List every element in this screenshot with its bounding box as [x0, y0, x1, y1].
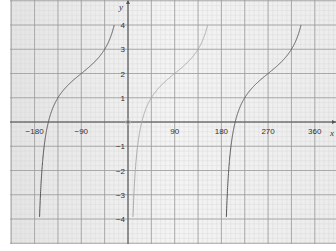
x-tick-label: 270 — [261, 127, 275, 136]
y-tick-label: 3 — [121, 45, 126, 54]
x-tick-label: 180 — [215, 127, 229, 136]
x-tick-label: 360 — [308, 127, 322, 136]
x-tick-label: −90 — [75, 127, 89, 136]
y-tick-label: −1 — [116, 142, 126, 151]
y-axis-label: y — [118, 2, 123, 12]
x-tick-label: 90 — [170, 127, 179, 136]
y-tick-label: −2 — [116, 167, 126, 176]
y-tick-label: −4 — [116, 215, 126, 224]
tan-graph: −180−90901802703604321−1−2−3−4xy — [0, 0, 336, 251]
y-tick-label: −3 — [116, 191, 126, 200]
x-axis-label: x — [329, 128, 334, 138]
y-tick-label: 2 — [121, 70, 126, 79]
y-tick-label: 4 — [121, 21, 126, 30]
y-tick-label: 1 — [121, 94, 126, 103]
x-tick-label: −180 — [26, 127, 45, 136]
